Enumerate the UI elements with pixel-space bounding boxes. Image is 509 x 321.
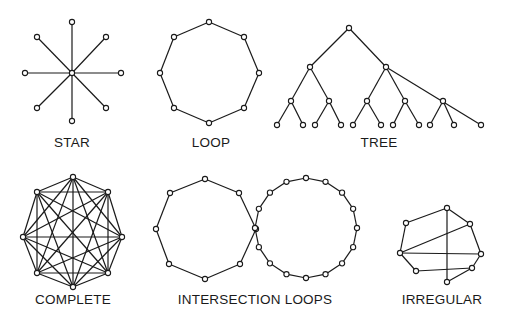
node — [256, 245, 261, 250]
node — [236, 190, 241, 195]
edge — [315, 101, 329, 125]
node — [397, 250, 402, 255]
node — [346, 25, 351, 30]
node — [69, 19, 74, 24]
node — [288, 98, 293, 103]
complete-graph — [20, 174, 124, 289]
node — [444, 205, 449, 210]
edge — [23, 192, 108, 237]
node — [326, 98, 331, 103]
node — [167, 190, 172, 195]
complete-label: COMPLETE — [35, 292, 111, 307]
node — [274, 122, 279, 127]
node — [105, 270, 110, 275]
node — [157, 70, 162, 75]
node — [351, 206, 356, 211]
edge — [416, 268, 472, 271]
node — [413, 268, 418, 273]
node — [241, 34, 246, 39]
node — [364, 98, 369, 103]
edge — [329, 101, 341, 125]
loop-graph — [157, 19, 261, 125]
node — [237, 261, 242, 266]
edge — [244, 73, 259, 108]
edge — [349, 28, 386, 67]
node — [478, 122, 483, 127]
edge — [470, 224, 481, 254]
node — [118, 70, 123, 75]
irregular-graph — [397, 205, 483, 284]
edge — [447, 208, 470, 224]
node — [22, 70, 27, 75]
edge — [37, 273, 73, 287]
intersection-loops-label: INTERSECTION LOOPS — [178, 292, 332, 307]
node — [256, 206, 261, 211]
node — [252, 225, 257, 230]
node — [34, 105, 39, 110]
edge — [430, 101, 443, 125]
node — [339, 261, 344, 266]
edge — [291, 101, 303, 125]
node — [351, 245, 356, 250]
edge — [386, 67, 481, 125]
edge — [205, 264, 240, 279]
edge — [37, 237, 122, 273]
node — [69, 118, 74, 123]
node — [171, 34, 176, 39]
edge — [406, 208, 447, 223]
node — [119, 234, 124, 239]
node — [202, 276, 207, 281]
node — [416, 122, 421, 127]
node — [469, 265, 474, 270]
edge — [310, 28, 349, 67]
star-label: STAR — [54, 135, 90, 150]
node — [284, 179, 289, 184]
node — [20, 234, 25, 239]
node — [241, 105, 246, 110]
node — [103, 34, 108, 39]
edge — [170, 179, 205, 193]
edge — [310, 67, 329, 101]
node — [256, 70, 261, 75]
node — [402, 98, 407, 103]
edge — [405, 101, 419, 125]
edge — [447, 268, 472, 282]
node — [34, 270, 39, 275]
edge — [400, 253, 416, 271]
node — [303, 275, 308, 280]
node — [354, 225, 359, 230]
edge — [160, 73, 174, 108]
irregular-label: IRREGULAR — [402, 292, 483, 307]
edge — [291, 67, 310, 101]
edge — [174, 108, 209, 123]
node — [390, 122, 395, 127]
node — [103, 105, 108, 110]
edge — [367, 101, 381, 125]
topology-graphics — [0, 0, 509, 321]
edge — [400, 224, 470, 253]
node — [427, 122, 432, 127]
edge — [367, 67, 386, 101]
node — [350, 122, 355, 127]
node — [206, 19, 211, 24]
node — [323, 272, 328, 277]
edge — [244, 37, 259, 73]
edge — [353, 101, 367, 125]
edge — [160, 37, 174, 73]
node — [69, 70, 74, 75]
node — [339, 190, 344, 195]
edge — [73, 273, 108, 287]
edge — [209, 22, 244, 37]
edge — [209, 108, 244, 123]
node — [206, 120, 211, 125]
node — [403, 220, 408, 225]
network-topology-diagram: STAR LOOP TREE COMPLETE INTERSECTION LOO… — [0, 0, 509, 321]
node — [323, 179, 328, 184]
edge — [400, 253, 481, 254]
node — [171, 105, 176, 110]
edge — [169, 264, 205, 279]
edge — [156, 193, 170, 229]
node — [70, 284, 75, 289]
star-graph — [22, 19, 123, 123]
node — [267, 261, 272, 266]
